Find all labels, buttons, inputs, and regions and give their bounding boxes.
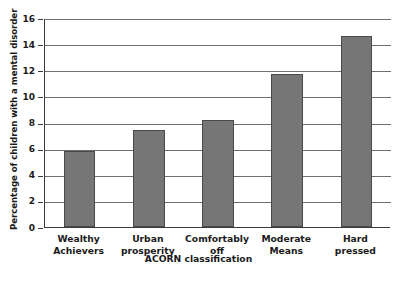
bar	[341, 36, 372, 227]
y-tick-mark-14	[38, 45, 43, 46]
y-tick-label-10: 10	[5, 93, 35, 102]
bar	[64, 151, 95, 227]
y-tick-label-8: 8	[5, 119, 35, 128]
y-tick-mark-0	[38, 228, 43, 229]
bar	[202, 120, 233, 227]
x-axis-label-line1: Wealthy	[57, 233, 99, 244]
x-axis-label-line1: Comfortably	[185, 233, 249, 244]
y-tick-label-4: 4	[5, 171, 35, 180]
x-axis-title: ACORN classification	[0, 253, 397, 264]
bar	[271, 74, 302, 227]
y-tick-label-16: 16	[5, 15, 35, 24]
y-tick-mark-4	[38, 176, 43, 177]
bar-chart-figure: Percentage of children with a mental dis…	[0, 0, 397, 287]
gridline-14	[45, 45, 391, 46]
bar	[133, 130, 164, 227]
y-tick-label-0: 0	[5, 224, 35, 233]
gridline-10	[45, 97, 391, 98]
y-tick-label-12: 12	[5, 67, 35, 76]
gridline-16	[45, 19, 391, 20]
y-tick-label-14: 14	[5, 41, 35, 50]
x-axis-label-line1: Urban	[132, 233, 163, 244]
y-tick-label-2: 2	[5, 197, 35, 206]
y-tick-mark-6	[38, 150, 43, 151]
gridline-12	[45, 71, 391, 72]
plot-area	[44, 19, 390, 228]
y-tick-mark-2	[38, 202, 43, 203]
y-tick-mark-12	[38, 71, 43, 72]
y-tick-label-6: 6	[5, 145, 35, 154]
y-tick-mark-16	[38, 19, 43, 20]
x-axis-label-line1: Hard	[343, 233, 368, 244]
y-tick-mark-8	[38, 124, 43, 125]
y-tick-mark-10	[38, 97, 43, 98]
x-axis-label-line1: Moderate	[261, 233, 311, 244]
